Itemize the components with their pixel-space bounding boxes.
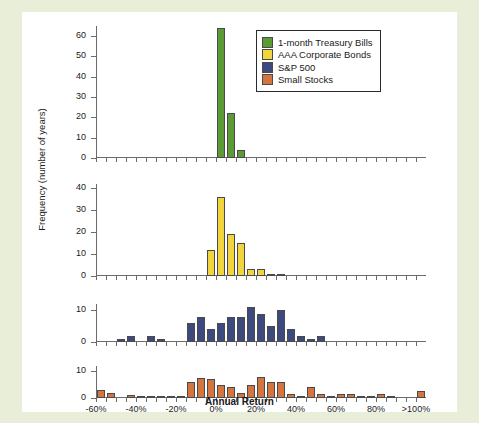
x-axis-tick: [356, 158, 357, 162]
x-axis-tick: [166, 276, 167, 280]
x-axis-tick: [206, 158, 207, 162]
x-axis-tick: [376, 158, 377, 162]
x-axis-tick: [116, 158, 117, 162]
histogram-bar: [237, 317, 245, 342]
x-axis-tick: [316, 276, 317, 280]
x-axis-tick: [266, 342, 267, 346]
x-axis-tick: [346, 158, 347, 162]
x-axis-tick: [156, 276, 157, 280]
x-axis-tick: [146, 276, 147, 280]
x-axis-tick: [286, 276, 287, 280]
x-axis-tick: [106, 158, 107, 162]
histogram-bar: [147, 336, 155, 342]
x-axis-tick: [236, 342, 237, 346]
x-axis-tick: [226, 342, 227, 346]
x-axis-tick: [186, 276, 187, 280]
chart-legend: 1-month Treasury BillsAAA Corporate Bond…: [256, 30, 381, 92]
legend-swatch-icon: [262, 37, 273, 48]
bar-series-3: [96, 304, 426, 342]
y-axis-tick-label: 0: [56, 271, 86, 280]
x-axis-tick: [366, 276, 367, 280]
histogram-bar: [267, 326, 275, 342]
y-axis-tick-label: 0: [56, 337, 86, 346]
bar-series-2: [96, 184, 426, 276]
x-axis-tick: [236, 276, 237, 280]
y-axis-tick-label: 20: [56, 112, 86, 121]
chart-panel: 010: [96, 366, 426, 398]
x-axis-tick: [176, 276, 177, 280]
x-axis-tick: [226, 276, 227, 280]
histogram-bar: [117, 339, 125, 342]
x-axis-tick: [416, 342, 417, 346]
x-axis-tick: [256, 158, 257, 162]
legend-item-label: AAA Corporate Bonds: [278, 49, 371, 60]
x-axis-tick: [276, 276, 277, 280]
histogram-bar: [227, 113, 235, 158]
x-axis-tick: [256, 276, 257, 280]
x-axis-tick: [386, 276, 387, 280]
x-axis-tick: [406, 342, 407, 346]
histogram-bar: [227, 234, 235, 276]
x-axis-tick: [416, 158, 417, 162]
x-axis-tick: [236, 158, 237, 162]
x-axis-tick: [126, 342, 127, 346]
legend-item: 1-month Treasury Bills: [262, 37, 373, 48]
x-axis-tick: [136, 276, 137, 280]
x-axis-tick: [166, 158, 167, 162]
histogram-bar: [287, 329, 295, 342]
x-axis-tick: [396, 158, 397, 162]
x-axis-tick: [106, 276, 107, 280]
histogram-bar: [277, 274, 285, 276]
panel-plot-area: 010: [96, 366, 426, 398]
x-axis-tick: [316, 158, 317, 162]
histogram-bar: [237, 243, 245, 276]
x-axis-tick: [176, 342, 177, 346]
x-axis-tick: [216, 158, 217, 162]
x-axis-title: Annual Return: [22, 396, 457, 407]
x-axis-tick: [366, 158, 367, 162]
histogram-bar: [237, 150, 245, 158]
y-axis-tick-label: 30: [56, 92, 86, 101]
x-axis-tick: [146, 342, 147, 346]
legend-item: AAA Corporate Bonds: [262, 49, 373, 60]
x-axis-tick: [376, 276, 377, 280]
legend-item: S&P 500: [262, 62, 373, 73]
legend-swatch-icon: [262, 49, 273, 60]
x-axis-tick: [96, 276, 97, 280]
y-axis-title: Frequency (number of years): [36, 75, 47, 265]
histogram-bar: [317, 336, 325, 342]
histogram-bar: [247, 269, 255, 276]
histogram-bar: [197, 317, 205, 342]
x-axis-tick: [186, 342, 187, 346]
x-axis-tick: [96, 342, 97, 346]
y-axis-tick-label: 60: [56, 31, 86, 40]
legend-item-label: Small Stocks: [278, 74, 333, 85]
histogram-bar: [187, 323, 195, 342]
x-axis-tick: [266, 276, 267, 280]
x-axis-tick: [366, 342, 367, 346]
x-axis-tick: [306, 342, 307, 346]
x-axis-tick: [346, 276, 347, 280]
x-axis-tick: [136, 158, 137, 162]
x-axis-tick: [156, 158, 157, 162]
x-axis-tick: [286, 342, 287, 346]
y-axis-tick-label: 10: [56, 133, 86, 142]
x-axis-tick: [386, 158, 387, 162]
x-axis-tick: [296, 158, 297, 162]
x-axis-tick: [326, 276, 327, 280]
x-axis-tick: [336, 276, 337, 280]
legend-item-label: S&P 500: [278, 62, 315, 73]
legend-item: Small Stocks: [262, 74, 373, 85]
histogram-bar: [297, 336, 305, 342]
panel-plot-area: 010: [96, 304, 426, 342]
chart-figure: Frequency (number of years) 010203040506…: [22, 12, 457, 412]
x-axis-tick: [336, 342, 337, 346]
x-axis-tick: [346, 342, 347, 346]
y-axis-tick-label: 50: [56, 51, 86, 60]
histogram-bar: [157, 339, 165, 342]
x-axis-tick: [256, 342, 257, 346]
y-axis-tick-label: 20: [56, 227, 86, 236]
y-axis-tick-label: 30: [56, 205, 86, 214]
chart-panel: 010: [96, 304, 426, 342]
x-axis-tick: [376, 342, 377, 346]
